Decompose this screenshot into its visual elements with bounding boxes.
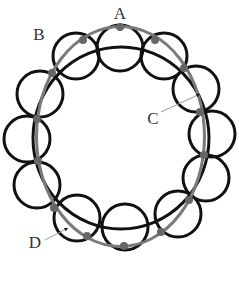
junction-dot — [200, 151, 208, 159]
label-d: D — [29, 233, 41, 252]
junction-dot — [151, 36, 159, 44]
inner-ellipse — [33, 47, 209, 229]
junction-dot — [33, 115, 41, 123]
label-c: C — [147, 109, 158, 128]
label-b: B — [33, 25, 44, 44]
loop-circle — [189, 111, 235, 157]
junction-dot — [180, 64, 188, 72]
junction-dot — [83, 232, 91, 240]
junction-dots — [33, 23, 208, 250]
junction-dot — [185, 196, 193, 204]
loop-circle — [4, 116, 50, 162]
junction-dot — [116, 23, 124, 31]
ring-diagram: ABCD — [0, 0, 239, 287]
junction-dot — [120, 242, 128, 250]
junction-dot — [34, 157, 42, 165]
leader-line-c — [161, 94, 200, 112]
junction-dot — [157, 228, 165, 236]
label-a: A — [114, 4, 127, 23]
junction-dot — [50, 204, 58, 212]
junction-dot — [196, 108, 204, 116]
guide-ellipse — [37, 27, 205, 247]
junction-dot — [79, 36, 87, 44]
loop-circles — [4, 25, 235, 250]
junction-dot — [48, 69, 56, 77]
